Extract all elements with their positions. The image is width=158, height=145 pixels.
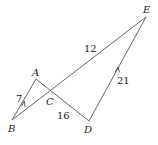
point-label-d: D [83, 124, 92, 135]
point-label-c: C [46, 96, 54, 107]
label-length-ab: 7 [16, 93, 22, 104]
point-label-a: A [31, 67, 39, 78]
segment-de [89, 17, 146, 121]
label-length-de: 21 [117, 75, 130, 86]
label-length-cd: 16 [57, 110, 70, 121]
point-label-e: E [142, 4, 151, 15]
geometry-diagram: 7 16 12 21 A B C D E [0, 0, 158, 145]
point-label-b: B [7, 123, 15, 134]
label-length-ce: 12 [84, 43, 97, 54]
